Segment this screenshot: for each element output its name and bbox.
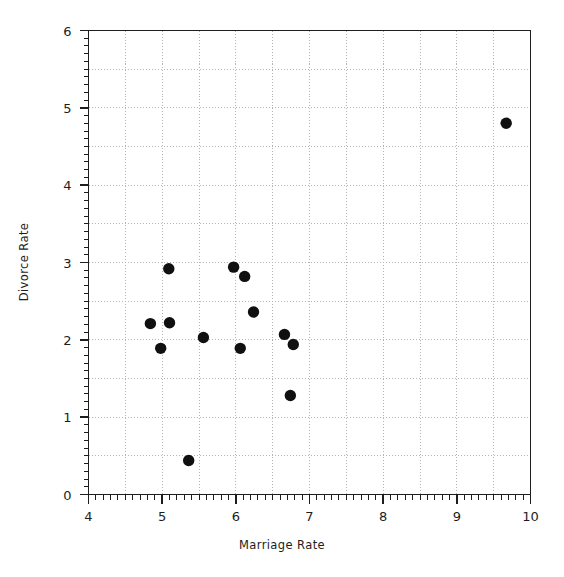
plot-canvas: 456789100123456	[0, 0, 564, 577]
y-tick-label: 6	[63, 24, 71, 39]
data-point	[285, 390, 296, 401]
data-point	[163, 263, 174, 274]
x-tick-label: 4	[84, 509, 92, 524]
data-point	[145, 318, 156, 329]
y-tick-label: 3	[63, 256, 71, 271]
y-tick-label: 2	[63, 333, 71, 348]
x-tick-label: 7	[305, 509, 313, 524]
y-axis-title: Divorce Rate	[17, 202, 31, 322]
data-point	[500, 118, 511, 129]
x-tick-label: 8	[379, 509, 387, 524]
y-tick-label: 4	[63, 178, 71, 193]
x-tick-label: 9	[453, 509, 461, 524]
x-axis-title: Marriage Rate	[0, 538, 564, 552]
scatter-chart: 456789100123456 Marriage Rate Divorce Ra…	[0, 0, 564, 577]
tick-labels: 456789100123456	[63, 24, 539, 524]
y-tick-label: 5	[63, 101, 71, 116]
major-ticks	[80, 31, 531, 504]
data-point	[235, 343, 246, 354]
data-point	[248, 306, 259, 317]
y-tick-label: 0	[63, 488, 71, 503]
data-point	[288, 339, 299, 350]
x-tick-label: 6	[232, 509, 240, 524]
data-point	[183, 455, 194, 466]
grid-lines	[89, 31, 531, 495]
data-point	[164, 317, 175, 328]
data-point	[239, 271, 250, 282]
y-tick-label: 1	[63, 410, 71, 425]
data-point	[228, 261, 239, 272]
data-point	[155, 343, 166, 354]
x-tick-label: 10	[522, 509, 539, 524]
x-tick-label: 5	[158, 509, 166, 524]
data-point	[198, 332, 209, 343]
data-point	[279, 329, 290, 340]
